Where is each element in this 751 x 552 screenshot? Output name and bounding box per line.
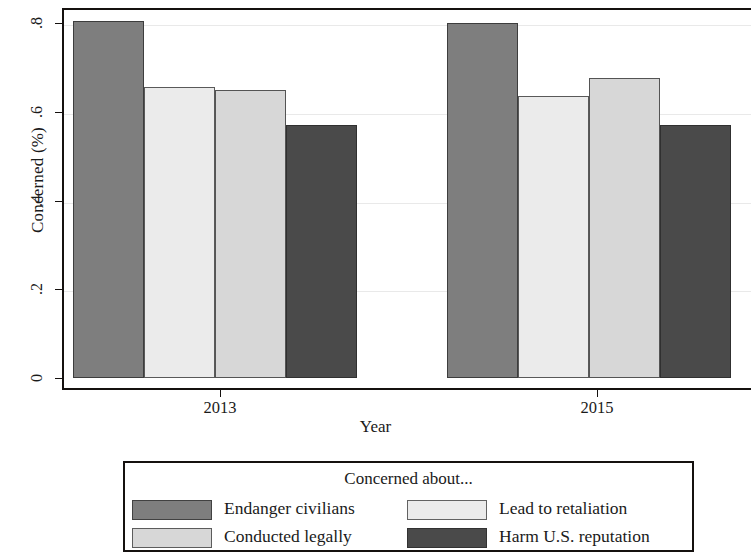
legend-label: Lead to retaliation xyxy=(499,498,627,519)
legend-swatch xyxy=(132,528,212,548)
x-axis-line xyxy=(62,388,751,390)
legend-title: Concerned about... xyxy=(125,469,692,489)
x-tick-mark xyxy=(597,390,598,397)
legend-box: Concerned about... Endanger civiliansLea… xyxy=(123,461,694,552)
y-tick-label: 0 xyxy=(28,365,46,391)
bar-chart-figure: Concerned (%) 0.2.4.6.8 20132015 Year Co… xyxy=(0,0,751,552)
plot-area xyxy=(62,8,751,388)
legend-swatch xyxy=(132,500,212,520)
x-axis-title: Year xyxy=(0,417,751,437)
x-tick-mark xyxy=(220,390,221,397)
y-tick-mark xyxy=(55,23,62,24)
y-tick-mark xyxy=(55,378,62,379)
y-tick-mark xyxy=(55,112,62,113)
legend-swatch xyxy=(407,528,487,548)
bar xyxy=(215,90,286,378)
y-tick-label: .6 xyxy=(28,99,46,125)
legend-label: Endanger civilians xyxy=(224,498,355,519)
bar xyxy=(518,96,589,378)
y-tick-label: .8 xyxy=(28,10,46,36)
y-tick-mark xyxy=(55,289,62,290)
x-tick-label: 2013 xyxy=(175,398,265,418)
bar xyxy=(73,21,144,378)
bar xyxy=(589,78,660,378)
bar xyxy=(286,125,357,378)
y-tick-label: .4 xyxy=(28,188,46,214)
y-tick-mark xyxy=(55,201,62,202)
legend-label: Harm U.S. reputation xyxy=(499,526,650,547)
y-tick-label: .2 xyxy=(28,276,46,302)
gridline xyxy=(64,25,751,26)
legend-label: Conducted legally xyxy=(224,526,352,547)
bar xyxy=(144,87,215,378)
bar xyxy=(447,23,518,378)
bar xyxy=(660,125,731,378)
x-tick-label: 2015 xyxy=(552,398,642,418)
legend-swatch xyxy=(407,500,487,520)
